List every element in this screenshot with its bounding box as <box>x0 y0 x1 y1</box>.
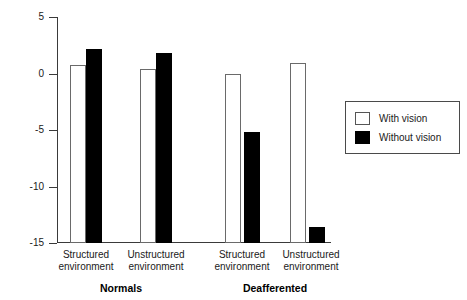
legend-label-with-vision: With vision <box>379 113 427 124</box>
group-label-normals: Normals <box>62 282 180 294</box>
y-tick-neg15 <box>49 243 57 244</box>
bar-with-vision-deafferented-unstructured <box>290 63 306 243</box>
bar-with-vision-normals-unstructured <box>140 69 156 243</box>
group-label-deafferented: Deafferented <box>210 282 340 294</box>
bar-without-vision-deafferented-structured <box>244 132 260 243</box>
y-tick-5 <box>49 17 57 18</box>
bar-with-vision-deafferented-structured <box>225 74 241 244</box>
y-axis-label-0: 0 <box>18 69 44 79</box>
category-label-3-line1: Unstructured <box>256 249 366 261</box>
y-tick-0 <box>49 74 57 75</box>
legend: With vision Without vision <box>345 101 460 154</box>
y-axis-label-neg5: -5 <box>18 125 44 135</box>
legend-label-without-vision: Without vision <box>379 132 441 143</box>
bar-without-vision-deafferented-unstructured <box>309 227 325 243</box>
y-tick-neg10 <box>49 187 57 188</box>
legend-item-with-vision: With vision <box>355 109 459 128</box>
legend-swatch-white-icon <box>355 112 370 125</box>
category-label-3-line2: environment <box>256 261 366 273</box>
category-label-3: Unstructured environment <box>256 249 366 273</box>
y-axis-label-neg10: -10 <box>18 182 44 192</box>
y-tick-neg5 <box>49 130 57 131</box>
bar-with-vision-normals-structured <box>70 65 86 244</box>
legend-item-without-vision: Without vision <box>355 128 459 147</box>
y-axis-label-neg15: -15 <box>18 238 44 248</box>
bar-without-vision-normals-unstructured <box>156 53 172 243</box>
y-axis-label-5: 5 <box>18 12 44 22</box>
bar-without-vision-normals-structured <box>86 49 102 243</box>
chart-root: 5 0 -5 -10 -15 Structured environment Un… <box>0 0 467 300</box>
legend-swatch-black-icon <box>355 131 370 144</box>
